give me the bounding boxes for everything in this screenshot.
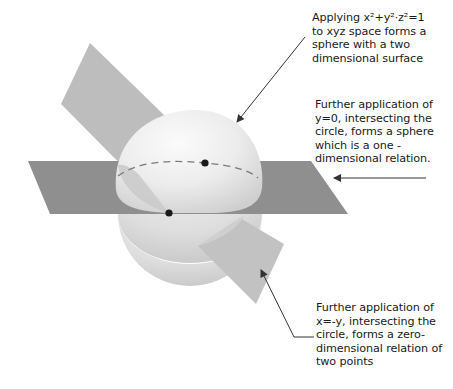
annotation-sphere: Applying x²+y²·z²=1 to xyz space forms a… xyxy=(312,11,452,65)
intersection-point-back xyxy=(201,159,208,166)
arrow-to-diagonal-plane xyxy=(261,270,314,337)
annotation-circle: Further application of y=0, intersecting… xyxy=(315,98,453,166)
arrow-to-sphere xyxy=(237,37,305,122)
annotation-points: Further application of x=-y, intersectin… xyxy=(316,301,453,369)
intersection-point-front xyxy=(165,209,172,216)
